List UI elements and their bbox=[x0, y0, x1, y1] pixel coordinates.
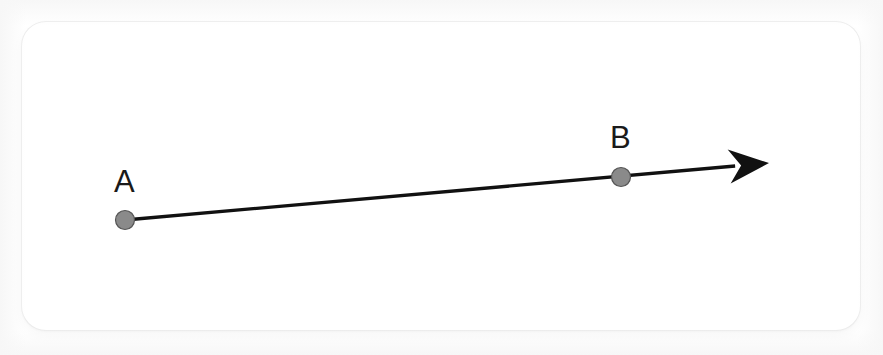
point-label-a: A bbox=[114, 166, 135, 197]
point-marker-b bbox=[612, 168, 631, 187]
figure-canvas: A B bbox=[0, 0, 883, 355]
point-label-b: B bbox=[610, 122, 631, 153]
ray-line bbox=[125, 166, 735, 220]
point-marker-a bbox=[116, 211, 135, 230]
